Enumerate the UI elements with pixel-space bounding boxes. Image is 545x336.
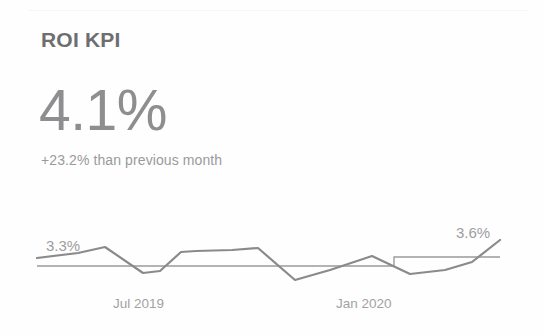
x-axis-tick-jul-2019: Jul 2019	[113, 296, 164, 311]
sparkline-chart: 3.3% 3.6% Jul 2019 Jan 2020	[0, 210, 545, 336]
x-axis-tick-jan-2020: Jan 2020	[336, 296, 392, 311]
kpi-value: 4.1%	[39, 82, 167, 139]
card-top-divider	[28, 10, 527, 11]
kpi-delta-text: +23.2% than previous month	[41, 152, 222, 168]
sparkline-start-label: 3.3%	[46, 237, 80, 254]
roi-line-series	[37, 240, 500, 280]
roi-kpi-card: ROI KPI 4.1% +23.2% than previous month …	[0, 0, 545, 336]
page-title: ROI KPI	[41, 28, 121, 52]
sparkline-end-label: 3.6%	[456, 224, 490, 241]
